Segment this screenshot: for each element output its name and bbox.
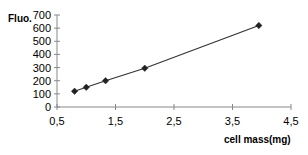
x-tick-label: 1,5 <box>108 115 123 127</box>
y-tick-label: 500 <box>33 35 51 47</box>
x-tick-label: 3,5 <box>225 115 240 127</box>
x-tick-label: 4,5 <box>283 115 298 127</box>
y-tick-label: 300 <box>33 62 51 74</box>
series-line <box>75 26 259 92</box>
diamond-marker <box>256 22 262 28</box>
plot-area <box>71 22 262 94</box>
y-tick-label: 100 <box>33 88 51 100</box>
diamond-marker <box>83 84 89 90</box>
x-tick-label: 0,5 <box>49 115 64 127</box>
diamond-marker <box>71 88 77 94</box>
x-axis-title: cell mass(mg) <box>224 134 291 145</box>
y-tick-label: 600 <box>33 22 51 34</box>
y-axis-title: Fluo. <box>8 13 32 24</box>
diamond-marker <box>102 78 108 84</box>
y-tick-label: 400 <box>33 48 51 60</box>
chart: 0100200300400500600700 0,51,52,53,54,5 F… <box>0 0 308 155</box>
y-tick-label: 700 <box>33 9 51 21</box>
y-axis: 0100200300400500600700 <box>33 9 60 113</box>
x-axis: 0,51,52,53,54,5 <box>49 104 298 127</box>
y-tick-label: 0 <box>45 101 51 113</box>
x-tick-label: 2,5 <box>166 115 181 127</box>
y-tick-label: 200 <box>33 75 51 87</box>
diamond-marker <box>142 65 148 71</box>
